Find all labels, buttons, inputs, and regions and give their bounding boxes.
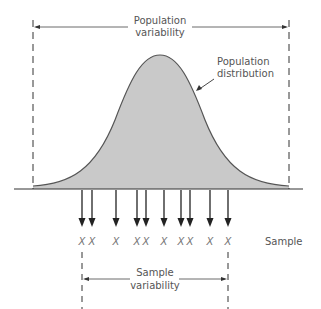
sample-arrow xyxy=(178,190,185,227)
sample-variability-label-line1: Sample xyxy=(136,267,174,278)
population-variability-label-line1: Population xyxy=(134,15,187,26)
sample-marker: X xyxy=(88,236,97,247)
sample-marker: X xyxy=(133,236,142,247)
sample-arrow xyxy=(134,190,141,227)
sample-arrow xyxy=(113,190,120,227)
sample-arrow xyxy=(225,190,232,227)
sample-label: Sample xyxy=(265,236,303,247)
population-distribution-label-line2: distribution xyxy=(217,68,274,79)
sample-marker: X xyxy=(160,236,169,247)
sample-marker: X xyxy=(186,236,195,247)
sample-arrow xyxy=(143,190,150,227)
sample-marker: X xyxy=(224,236,233,247)
sample-arrow xyxy=(161,190,168,227)
sample-marker: X xyxy=(112,236,121,247)
population-distribution-pointer xyxy=(196,79,214,91)
sampling-diagram: Population variability Population distri… xyxy=(0,0,321,309)
sample-variability-label-line2: variability xyxy=(130,280,180,291)
sample-marker: X xyxy=(177,236,186,247)
sample-arrow xyxy=(187,190,194,227)
sample-marker: X xyxy=(142,236,151,247)
sample-markers: X X X X X X X X X X xyxy=(78,236,233,247)
population-variability-label-line2: variability xyxy=(135,27,185,38)
sample-marker: X xyxy=(78,236,87,247)
sample-marker: X xyxy=(206,236,215,247)
sample-arrow xyxy=(207,190,214,227)
sample-arrow xyxy=(79,190,86,227)
sample-arrows xyxy=(79,190,232,227)
sample-arrow xyxy=(89,190,96,227)
population-distribution-label-line1: Population xyxy=(217,56,270,67)
